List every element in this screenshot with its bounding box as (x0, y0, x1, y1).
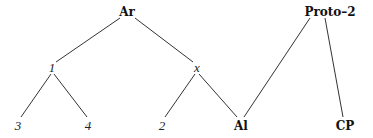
edge-x-al (199, 74, 237, 117)
edges (21, 18, 343, 117)
edge-ar-x (135, 18, 193, 62)
node-2: 2 (159, 118, 166, 133)
node-ar: Ar (118, 5, 135, 19)
node-4: 4 (85, 118, 92, 133)
node-x: x (193, 60, 200, 75)
edge-1-4 (54, 74, 87, 117)
edge-proto2-al (244, 18, 310, 117)
edge-x-2 (165, 74, 195, 117)
tree-diagram: Ar Proto–2 1 x 3 4 2 Al CP (0, 0, 373, 138)
edge-ar-1 (56, 18, 120, 62)
edge-proto2-cp (325, 18, 343, 117)
node-cp: CP (336, 119, 355, 133)
node-al: Al (233, 119, 248, 133)
node-proto-2: Proto–2 (304, 5, 355, 19)
node-1: 1 (49, 60, 56, 75)
node-3: 3 (14, 118, 22, 133)
nodes: Ar Proto–2 1 x 3 4 2 Al CP (14, 5, 356, 133)
edge-1-3 (21, 74, 51, 117)
